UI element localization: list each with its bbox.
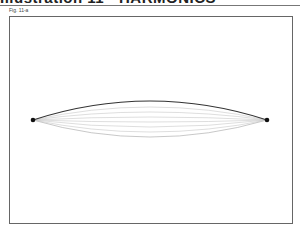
harmonic-curves <box>33 101 267 137</box>
endpoint-dot <box>31 118 36 123</box>
harmonic-curve <box>33 107 267 120</box>
vibrating-string-diagram <box>0 0 300 234</box>
harmonic-curve <box>33 120 267 137</box>
harmonic-curve <box>33 117 267 120</box>
harmonic-curve <box>33 120 267 122</box>
endpoint-dot <box>265 118 270 123</box>
